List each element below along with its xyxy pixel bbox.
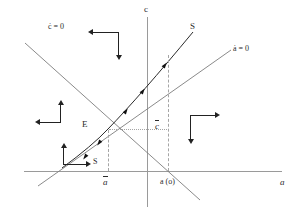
arrow-cross-right-horizontal (190, 115, 216, 116)
arrow-cross-mid-left-horizontal (40, 122, 61, 123)
y-axis-label: c (144, 5, 148, 14)
arrow-cross-lower-left-vertical (63, 147, 64, 165)
saddle-arrow-upper-3 (123, 107, 130, 114)
c-dot-zero-label: ċ = 0 (48, 23, 64, 31)
y-axis-line (147, 17, 148, 207)
arrow-head-left-icon (88, 29, 93, 35)
c-bar-label: c (155, 122, 159, 131)
c-bar-glyph: c (155, 122, 159, 131)
a-dot-zero-label: ȧ = 0 (233, 45, 249, 53)
arrow-cross-right-vertical (190, 115, 191, 140)
arrow-cross-mid-left (35, 100, 65, 128)
arrow-head-up-icon (61, 143, 67, 148)
saddle-arrow-lower-1 (96, 139, 103, 146)
arrow-head-right-icon (215, 112, 220, 118)
arrow-cross-lower-left-horizontal (63, 164, 87, 165)
arrow-head-right-icon (86, 161, 91, 167)
arrow-cross-top-left-horizontal (93, 32, 119, 33)
a-bar-glyph: a (103, 178, 108, 187)
arrow-cross-mid-left-vertical (60, 104, 61, 123)
dotted-guide-a-initial (168, 55, 169, 171)
arrow-cross-right (190, 115, 224, 147)
arrow-cross-top-left (88, 32, 120, 62)
equilibrium-label: E (82, 120, 88, 129)
saddle-arrow-upper-2 (140, 87, 147, 94)
arrow-head-down-icon (188, 139, 194, 144)
saddle-path-label-upper: S (190, 22, 195, 31)
phase-diagram-figure: c a ċ = 0 ȧ = 0 S S E a c a (o) (0, 0, 296, 216)
arrow-head-up-icon (58, 100, 64, 105)
dotted-guide-a-bar (108, 130, 109, 171)
arrow-cross-top-left-vertical (118, 32, 119, 56)
a-initial-label: a (o) (160, 178, 175, 186)
arrow-cross-lower-left (63, 142, 95, 170)
arrow-head-left-icon (35, 119, 40, 125)
arrow-head-down-icon (116, 55, 122, 60)
x-axis-line (24, 171, 282, 172)
a-bar-label: a (103, 178, 108, 187)
x-axis-label: a (280, 178, 285, 187)
